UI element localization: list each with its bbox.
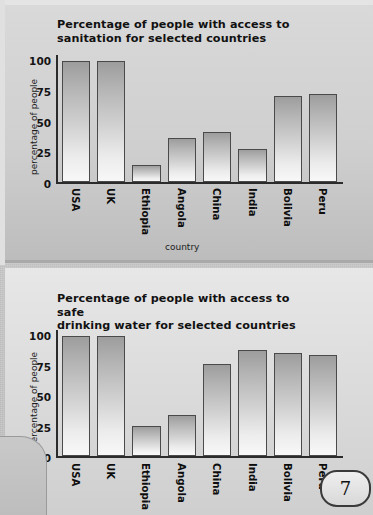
x-axis-label-sanitation: country (165, 242, 199, 252)
x-tick-label: Ethiopia (140, 188, 151, 235)
y-tick-label: 50 (36, 391, 51, 403)
x-tick-label: UK (105, 463, 116, 479)
bar (309, 94, 337, 182)
bar (62, 336, 90, 456)
x-tick-label: USA (70, 463, 81, 487)
bar (274, 353, 302, 456)
y-tick-label: 50 (36, 117, 51, 129)
plot-area-sanitation: 0255075100 (56, 55, 343, 184)
x-tick-label: Angola (176, 188, 187, 228)
bar (309, 355, 337, 456)
y-tick-label: 25 (36, 422, 51, 434)
bar-series-drinking-water (58, 330, 343, 456)
y-tick-label: 25 (36, 147, 51, 159)
x-tick-label: Angola (176, 463, 187, 503)
y-tick-label: 75 (36, 86, 51, 98)
page-corner-notch (0, 436, 47, 515)
page-number-badge: 7 (320, 470, 371, 507)
x-tick-label: Bolivia (282, 188, 293, 227)
x-axis-line (56, 182, 343, 184)
worksheet-page: Percentage of people with access to sani… (0, 0, 373, 515)
x-tick-label: China (211, 188, 222, 220)
x-tick-label: India (247, 463, 258, 492)
chart-panel-sanitation: Percentage of people with access to sani… (5, 5, 373, 263)
x-tick-label: India (247, 188, 258, 217)
x-axis-line (56, 456, 343, 458)
bar (203, 364, 231, 456)
chart-title-drinking-water: Percentage of people with access to safe… (57, 292, 319, 333)
bar (132, 426, 160, 456)
bar (97, 336, 125, 456)
x-tick-label: Bolivia (282, 463, 293, 502)
bar-series-sanitation (58, 55, 343, 182)
x-tick-label: UK (105, 188, 116, 204)
bar (238, 149, 266, 182)
x-tick-label: China (211, 463, 222, 495)
y-tick-label: 100 (29, 55, 51, 67)
bar (238, 350, 266, 456)
bar (132, 165, 160, 182)
bar (168, 138, 196, 182)
bar (274, 96, 302, 182)
chart-panel-drinking-water: Percentage of people with access to safe… (5, 268, 373, 515)
bar (62, 61, 90, 182)
y-tick-label: 100 (29, 330, 51, 342)
bar (97, 61, 125, 182)
y-tick-label: 0 (44, 178, 51, 190)
x-tick-label: USA (70, 188, 81, 212)
chart-title-sanitation: Percentage of people with access to sani… (57, 18, 307, 45)
bar (203, 132, 231, 182)
y-tick-label: 75 (36, 361, 51, 373)
x-tick-label: Peru (317, 188, 328, 215)
plot-area-drinking-water: 0255075100 (56, 330, 343, 458)
bar (168, 415, 196, 456)
x-tick-label: Ethiopia (140, 463, 151, 510)
